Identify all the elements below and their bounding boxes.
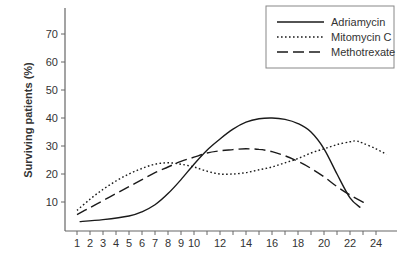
line-chart: Surviving patients (%) 10203040506070 12… [0, 0, 412, 260]
y-tick-label: 70 [46, 28, 58, 40]
legend-label: Mitomycin C [331, 31, 392, 43]
x-tick-label: 14 [240, 237, 252, 249]
x-tick-label: 18 [292, 237, 304, 249]
x-tick-label: 22 [344, 237, 356, 249]
x-tick-label: 12 [214, 237, 226, 249]
x-tick-label: 8 [165, 237, 171, 249]
x-tick-label: 10 [188, 237, 200, 249]
x-tick-label: 9 [178, 237, 184, 249]
legend-label: Adriamycin [331, 16, 385, 28]
legend: Adriamycin Mitomycin C Methotrexate [266, 6, 395, 68]
x-tick-label: 4 [113, 237, 119, 249]
series-adriamycin [80, 118, 361, 222]
x-tick-label: 3 [100, 237, 106, 249]
series-methotrexate [77, 149, 366, 215]
series-mitomycin-c [77, 141, 386, 210]
x-tick-label: 1 [74, 237, 80, 249]
series-lines [77, 118, 386, 222]
y-axis-ticks: 10203040506070 [46, 28, 65, 208]
y-tick-label: 60 [46, 56, 58, 68]
x-axis-ticks: 1234567891012141618202224 [74, 231, 382, 249]
y-tick-label: 40 [46, 112, 58, 124]
x-tick-label: 6 [139, 237, 145, 249]
x-tick-label: 5 [126, 237, 132, 249]
x-tick-label: 2 [87, 237, 93, 249]
y-tick-label: 30 [46, 140, 58, 152]
x-tick-label: 7 [152, 237, 158, 249]
y-tick-label: 10 [46, 196, 58, 208]
legend-label: Methotrexate [331, 46, 395, 58]
x-tick-label: 24 [370, 237, 382, 249]
y-tick-label: 20 [46, 168, 58, 180]
x-tick-label: 20 [318, 237, 330, 249]
x-tick-label: 16 [266, 237, 278, 249]
y-tick-label: 50 [46, 84, 58, 96]
y-axis-label: Surviving patients (%) [22, 62, 34, 178]
